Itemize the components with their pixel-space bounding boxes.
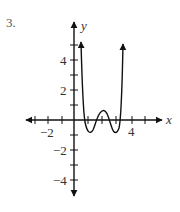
- y-tick-label-neg2: −2: [53, 143, 67, 158]
- y-axis-label: y: [79, 18, 87, 33]
- x-tick-label-4: 4: [128, 124, 135, 139]
- y-tick-label-2: 2: [60, 83, 67, 98]
- y-tick-label-neg4: −4: [53, 173, 67, 188]
- y-tick-label-4: 4: [60, 53, 67, 68]
- graph: y x −2 4 4 2 −2 −4: [0, 0, 180, 212]
- x-tick-label-neg2: −2: [40, 125, 54, 140]
- x-axis-label: x: [165, 112, 172, 127]
